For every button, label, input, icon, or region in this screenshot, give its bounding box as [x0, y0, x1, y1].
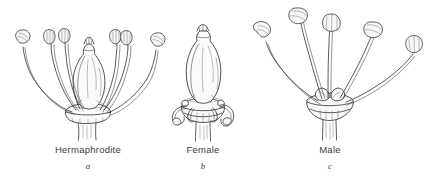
stamen-c-4 [340, 22, 382, 99]
botanical-figure-plate: Hermaphrodite a Female b Male c [0, 0, 431, 179]
receptacle-c [307, 93, 354, 121]
flower-sex-types-illustration [0, 0, 431, 179]
pedicel-a [78, 122, 96, 140]
stamen-c-2 [289, 8, 325, 99]
staminode-b-left-outer [172, 106, 186, 125]
stamen-c-3 [323, 14, 341, 98]
panel-hermaphrodite [16, 29, 165, 140]
pedicel-b [196, 122, 211, 141]
stamen-a-6 [108, 33, 165, 115]
stamen-c-1 [253, 22, 320, 104]
ovary-b [186, 25, 221, 104]
pedicel-c [323, 118, 337, 140]
panel-male [253, 8, 422, 140]
panel-female [172, 25, 233, 141]
stamen-c-5 [346, 36, 422, 105]
